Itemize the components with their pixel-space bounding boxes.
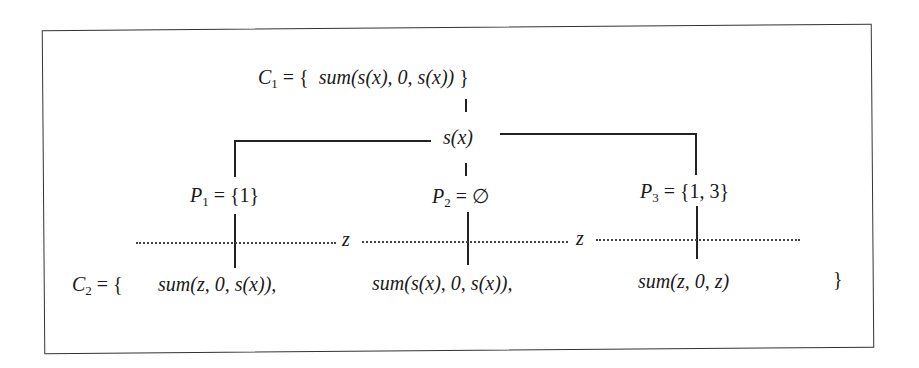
branch-drop-right xyxy=(695,133,697,175)
top-set-suffix: } xyxy=(459,66,469,88)
partition-subscript: 2 xyxy=(444,195,451,210)
top-set-subscript: 1 xyxy=(271,76,278,91)
top-set-prefix: = { xyxy=(283,66,309,88)
branch-line-right xyxy=(500,133,696,135)
partition-connector-1 xyxy=(234,214,236,268)
bottom-set-c2: C2 = { xyxy=(72,273,123,299)
partition-p3: P3 = {1, 3} xyxy=(640,180,729,206)
branch-drop-left xyxy=(234,140,236,177)
top-set-c1: C1 = { sum(s(x), 0, s(x)) } xyxy=(258,66,469,92)
element-text: sum(z, 0, z) xyxy=(638,270,729,292)
partition-p2: P2 = ∅ xyxy=(432,184,489,211)
branch-line-left xyxy=(235,140,431,142)
separator-label-2: z xyxy=(576,227,584,250)
element-text: sum(s(x), 0, s(x)), xyxy=(372,272,513,294)
partition-value: = {1} xyxy=(214,184,259,206)
bottom-set-prefix: = { xyxy=(97,273,123,295)
bottom-set-element-1: sum(z, 0, s(x)), xyxy=(158,273,276,296)
branch-node: s(x) xyxy=(443,126,473,149)
top-set-name: C xyxy=(258,66,271,88)
partition-connector-3 xyxy=(696,206,698,259)
partition-name: P xyxy=(640,180,652,202)
separator-dots-3 xyxy=(596,239,800,241)
separator-label-1: z xyxy=(342,228,350,251)
separator-dots-1 xyxy=(136,242,336,244)
partition-connector-2 xyxy=(467,212,469,265)
branch-drop-middle xyxy=(465,163,467,176)
partition-name: P xyxy=(190,184,202,206)
bottom-set-element-2: sum(s(x), 0, s(x)), xyxy=(372,272,513,295)
partition-subscript: 1 xyxy=(202,194,209,209)
top-set-element: sum(s(x), 0, s(x)) xyxy=(319,66,455,88)
partition-name: P xyxy=(432,185,444,207)
bottom-set-name: C xyxy=(72,273,85,295)
bottom-set-suffix: } xyxy=(833,268,843,291)
separator-z: z xyxy=(342,228,350,250)
connector-top xyxy=(465,99,467,112)
branch-node-label: s(x) xyxy=(443,126,473,148)
element-text: sum(z, 0, s(x)), xyxy=(158,273,276,295)
closing-brace: } xyxy=(833,268,843,290)
bottom-set-element-3: sum(z, 0, z) xyxy=(638,270,729,293)
bottom-set-subscript: 2 xyxy=(85,283,92,298)
partition-subscript: 3 xyxy=(652,190,659,205)
partition-value: = {1, 3} xyxy=(664,180,729,202)
separator-dots-2 xyxy=(362,241,568,243)
separator-z: z xyxy=(576,227,584,249)
partition-p1: P1 = {1} xyxy=(190,184,259,210)
partition-value: = ∅ xyxy=(456,185,489,207)
